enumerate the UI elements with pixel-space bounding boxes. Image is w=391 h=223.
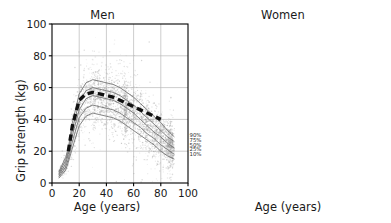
plot-area-men: 90%75%50%25%10%020406080100020406080100 xyxy=(0,0,205,223)
x-tick-label: 20 xyxy=(73,187,86,199)
y-tick-label: 100 xyxy=(26,18,46,30)
x-tick-label: 100 xyxy=(178,187,198,199)
y-tick-label: 20 xyxy=(33,145,46,157)
x-tick-label: 80 xyxy=(154,187,167,199)
x-tick-label: 60 xyxy=(127,187,140,199)
y-tick-label: 0 xyxy=(40,177,47,189)
y-tick-label: 60 xyxy=(33,81,46,93)
panel-women: Women Age (years) xyxy=(203,0,391,223)
percentile-label: 10% xyxy=(190,151,202,157)
x-tick-label: 0 xyxy=(49,187,56,199)
plot-area-women xyxy=(203,0,391,223)
panel-men: Men Grip strength (kg) Age (years) 90%75… xyxy=(0,0,205,223)
y-tick-label: 40 xyxy=(33,113,46,125)
y-tick-label: 80 xyxy=(33,50,46,62)
grip-strength-figure: Men Grip strength (kg) Age (years) 90%75… xyxy=(0,0,391,223)
percentile-legend: 90%75%50%25%10% xyxy=(190,132,202,157)
x-tick-label: 40 xyxy=(100,187,113,199)
